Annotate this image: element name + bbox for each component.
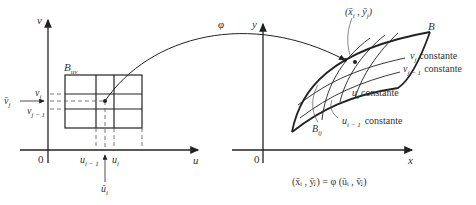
left-panel: v u 0 Buv vj vj − 1 v̄j ui − 1 ui ūi (4, 14, 199, 197)
label-vj: vj (35, 87, 41, 101)
right-panel: y x 0 B (x̄i , ȳj) vjconstante vj − 1con… (232, 6, 462, 188)
point-mapped (343, 58, 347, 62)
label-vj-1: vj − 1 (27, 105, 45, 119)
mapping-equation: (x̄ᵢ , ȳⱼ) = φ (ūᵢ , v̄ⱼ) (292, 176, 367, 188)
region-b (292, 32, 430, 132)
cell-bij-label: Bij (312, 123, 322, 137)
region-buv-label: Buv (64, 61, 78, 76)
label-ui-1-constante: ui − 1constante (342, 115, 403, 129)
origin-label-left: 0 (38, 153, 44, 165)
y-axis-label: y (251, 18, 257, 30)
label-ubar-i: ūi (101, 183, 108, 197)
diagram-canvas: v u 0 Buv vj vj − 1 v̄j ui − 1 ui ūi (0, 0, 476, 205)
x-axis-label: x (407, 154, 413, 166)
origin-label-right: 0 (254, 153, 260, 165)
v-axis-label: v (37, 14, 42, 26)
label-ui-1: ui − 1 (80, 154, 99, 168)
label-ui-constante: uiconstante (352, 87, 399, 101)
label-ui: ui (112, 154, 119, 168)
region-b-label: B (428, 20, 435, 32)
point-xy (353, 60, 357, 64)
u-axis-label: u (193, 154, 199, 166)
label-vbar-j: v̄j (4, 95, 10, 109)
phi-label: φ (218, 18, 224, 30)
label-vj-1-constante: vj − 1constante (403, 63, 462, 77)
point-label: (x̄i , ȳj) (345, 6, 373, 20)
